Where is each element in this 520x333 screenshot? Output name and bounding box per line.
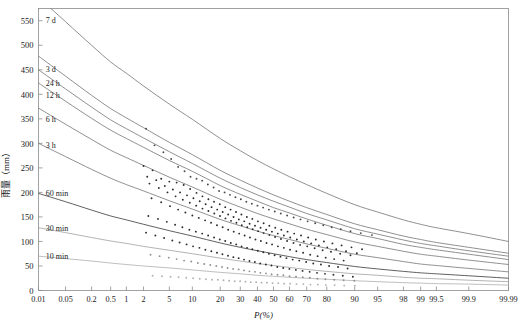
data-point bbox=[371, 234, 373, 236]
data-point bbox=[300, 218, 302, 220]
x-tick-label: 80 bbox=[323, 295, 331, 304]
data-point bbox=[154, 235, 156, 237]
data-point bbox=[268, 253, 270, 255]
data-point bbox=[244, 235, 246, 237]
x-tick-label: 90 bbox=[351, 295, 359, 304]
data-point bbox=[302, 270, 304, 272]
data-point bbox=[221, 253, 223, 255]
data-point bbox=[259, 272, 261, 274]
data-point bbox=[280, 256, 282, 258]
data-point bbox=[202, 208, 204, 210]
data-point bbox=[201, 233, 203, 235]
data-point bbox=[265, 272, 267, 274]
data-point bbox=[152, 169, 154, 171]
y-axis-ticks: 050100150200250300350400450500550 bbox=[21, 16, 43, 296]
data-point bbox=[266, 282, 268, 284]
data-point bbox=[179, 191, 181, 193]
data-point bbox=[228, 280, 230, 282]
data-point bbox=[295, 276, 297, 278]
data-point bbox=[325, 257, 327, 259]
y-tick-label: 50 bbox=[25, 261, 34, 271]
scatter-points bbox=[143, 128, 373, 287]
curve-12-h bbox=[39, 83, 509, 260]
data-point bbox=[238, 233, 240, 235]
data-point bbox=[257, 250, 259, 252]
data-point bbox=[274, 211, 276, 213]
data-point bbox=[310, 242, 312, 244]
data-point bbox=[268, 234, 270, 236]
data-point bbox=[186, 243, 188, 245]
data-point bbox=[300, 235, 302, 237]
data-point bbox=[224, 191, 226, 193]
data-point bbox=[150, 254, 152, 256]
y-tick-label: 250 bbox=[21, 163, 34, 173]
data-point bbox=[288, 268, 290, 270]
data-point bbox=[299, 244, 301, 246]
data-point bbox=[213, 237, 215, 239]
data-point bbox=[350, 254, 352, 256]
y-tick-label: 500 bbox=[21, 40, 34, 50]
data-point bbox=[234, 280, 236, 282]
data-point bbox=[224, 240, 226, 242]
data-point bbox=[223, 279, 225, 281]
y-tick-label: 100 bbox=[21, 237, 34, 247]
data-point bbox=[296, 283, 298, 285]
x-tick-label: 2 bbox=[142, 295, 146, 304]
data-point bbox=[145, 232, 147, 234]
data-point bbox=[265, 264, 267, 266]
data-point bbox=[316, 278, 318, 280]
data-point bbox=[274, 236, 276, 238]
data-point bbox=[249, 260, 251, 262]
data-point bbox=[145, 128, 147, 130]
data-point bbox=[259, 263, 261, 265]
curve-label-12-h: 12 h bbox=[46, 91, 60, 100]
data-point bbox=[354, 285, 356, 287]
data-point bbox=[330, 251, 332, 253]
data-point bbox=[235, 243, 237, 245]
data-point bbox=[351, 246, 353, 248]
x-tick-label: 99.99 bbox=[499, 295, 517, 304]
x-axis-title-group: P(%) bbox=[253, 310, 273, 320]
curve-label-3-d: 3 d bbox=[46, 65, 56, 74]
curve-10-min bbox=[39, 256, 509, 285]
data-point bbox=[283, 283, 285, 285]
data-point bbox=[241, 224, 243, 226]
data-point bbox=[255, 281, 257, 283]
data-point bbox=[341, 244, 343, 246]
data-point bbox=[286, 215, 288, 217]
data-point bbox=[272, 282, 274, 284]
data-point bbox=[169, 205, 171, 207]
data-point bbox=[240, 214, 242, 216]
data-point bbox=[210, 250, 212, 252]
data-point bbox=[306, 245, 308, 247]
data-point bbox=[184, 212, 186, 214]
y-tick-label: 200 bbox=[21, 188, 34, 198]
data-point bbox=[293, 242, 295, 244]
data-point bbox=[192, 197, 194, 199]
data-point bbox=[274, 227, 276, 229]
y-tick-label: 450 bbox=[21, 65, 34, 75]
data-point bbox=[205, 203, 207, 205]
data-point bbox=[333, 258, 335, 260]
data-point bbox=[233, 231, 235, 233]
data-point bbox=[262, 207, 264, 209]
data-point bbox=[178, 276, 180, 278]
data-point bbox=[176, 258, 178, 260]
data-point bbox=[289, 283, 291, 285]
data-point bbox=[333, 279, 335, 281]
data-point bbox=[215, 265, 217, 267]
data-point bbox=[232, 268, 234, 270]
data-point bbox=[268, 209, 270, 211]
data-point bbox=[342, 275, 344, 277]
data-point bbox=[219, 215, 221, 217]
data-point bbox=[261, 282, 263, 284]
data-point bbox=[154, 144, 156, 146]
data-point bbox=[243, 259, 245, 261]
data-point bbox=[183, 184, 185, 186]
data-point bbox=[337, 266, 339, 268]
data-point bbox=[285, 257, 287, 259]
data-point bbox=[172, 189, 174, 191]
x-tick-label: 40 bbox=[253, 295, 261, 304]
data-point bbox=[219, 203, 221, 205]
data-point bbox=[207, 235, 209, 237]
